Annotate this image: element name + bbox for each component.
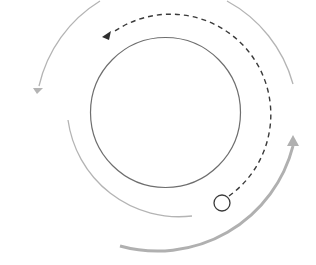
bottom-thick-arrowhead-icon (287, 135, 299, 146)
start-marker-circle (214, 195, 230, 211)
bottom-thick-arc (120, 146, 293, 251)
lower-left-arc (68, 120, 192, 217)
outer-top-right-arc (227, 1, 293, 84)
outer-top-left-arc (39, 1, 100, 86)
cycle-diagram (0, 0, 316, 265)
diagram-canvas (0, 0, 316, 265)
dashed-arrowhead-icon (102, 31, 111, 40)
outer-top-left-arrowhead-icon (33, 88, 43, 94)
central-circle (91, 38, 241, 188)
dashed-arrow-path (112, 14, 271, 196)
